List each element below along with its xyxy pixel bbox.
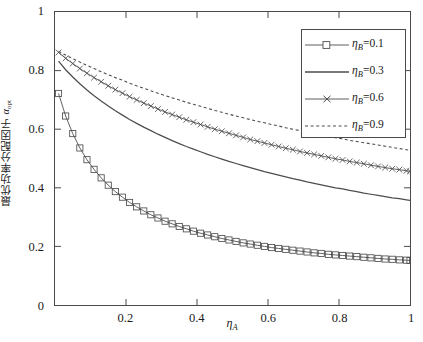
marker-cross [120, 90, 126, 96]
figure-chart: 00.20.40.60.81 最优功率分配因子 αopt 0.20.40.60.… [0, 0, 423, 342]
marker-cross [155, 106, 161, 112]
marker-cross [233, 132, 239, 138]
legend-item-4[interactable]: ηB=0.9 [302, 112, 407, 139]
marker-cross [183, 117, 189, 123]
legend-value: =0.1 [363, 37, 384, 49]
marker-cross [134, 97, 140, 103]
legend-item-2[interactable]: ηB=0.3 [302, 58, 407, 85]
legend-box: ηB=0.1ηB=0.3ηB=0.6ηB=0.9 [301, 29, 406, 138]
x-tick-label: 0.4 [189, 311, 205, 326]
legend-value: =0.3 [363, 64, 384, 76]
y-axis-title-subscript: opt [5, 100, 13, 109]
marker-cross [98, 79, 104, 85]
marker-cross [70, 61, 76, 67]
legend-sample-cross-icon [302, 92, 352, 106]
y-tick-label: 1 [38, 4, 44, 19]
legend-label-1: ηB=0.1 [352, 37, 384, 52]
marker-cross [198, 122, 204, 128]
marker-cross [63, 55, 69, 61]
x-tick-label: 1 [408, 311, 414, 326]
legend-sample-square-icon [302, 38, 352, 52]
marker-square [55, 90, 61, 96]
marker-cross [84, 70, 90, 76]
marker-cross [77, 66, 83, 72]
y-tick-label: 0.4 [28, 181, 44, 196]
marker-cross [226, 130, 232, 136]
x-axis-title-subscript: A [232, 322, 237, 332]
marker-cross [176, 114, 182, 120]
legend-item-1[interactable]: ηB=0.1 [302, 31, 407, 58]
y-tick-label: 0.8 [28, 63, 44, 78]
x-tick-label: 0.2 [118, 311, 134, 326]
legend-sample-solid-icon [302, 65, 352, 79]
marker-cross [169, 112, 175, 118]
y-axis-title-symbol: α [0, 109, 11, 115]
legend-label-2: ηB=0.3 [352, 64, 384, 79]
legend-sample-dashed-icon [302, 119, 352, 133]
y-axis-title: 最优功率分配因子 αopt [0, 100, 16, 206]
marker-cross [219, 128, 225, 134]
y-tick-label: 0.2 [28, 240, 44, 255]
marker-cross [148, 103, 154, 109]
marker-cross [262, 140, 268, 146]
marker-cross [112, 87, 118, 93]
marker-cross [127, 94, 133, 100]
legend-value: =0.6 [363, 91, 384, 103]
marker-cross [141, 100, 147, 106]
x-tick-label: 0.8 [332, 311, 348, 326]
y-axis-title-cn: 最优功率分配因子 [0, 114, 12, 205]
marker-cross [191, 119, 197, 125]
marker-cross [91, 75, 97, 81]
marker-cross [105, 83, 111, 89]
x-tick-label: 0.6 [260, 311, 276, 326]
legend-label-4: ηB=0.9 [352, 118, 384, 133]
legend-label-3: ηB=0.6 [352, 91, 384, 106]
marker-cross [276, 144, 282, 150]
y-tick-label: 0 [38, 299, 44, 314]
marker-cross [254, 138, 260, 144]
marker-cross [247, 137, 253, 143]
marker-cross [162, 109, 168, 115]
marker-cross [205, 124, 211, 130]
marker-cross [212, 126, 218, 132]
y-tick-label: 0.6 [28, 122, 44, 137]
marker-cross [240, 135, 246, 141]
x-axis-title: ηA [226, 316, 237, 332]
legend-value: =0.9 [363, 118, 384, 130]
legend-item-3[interactable]: ηB=0.6 [302, 85, 407, 112]
marker-cross [269, 142, 275, 148]
